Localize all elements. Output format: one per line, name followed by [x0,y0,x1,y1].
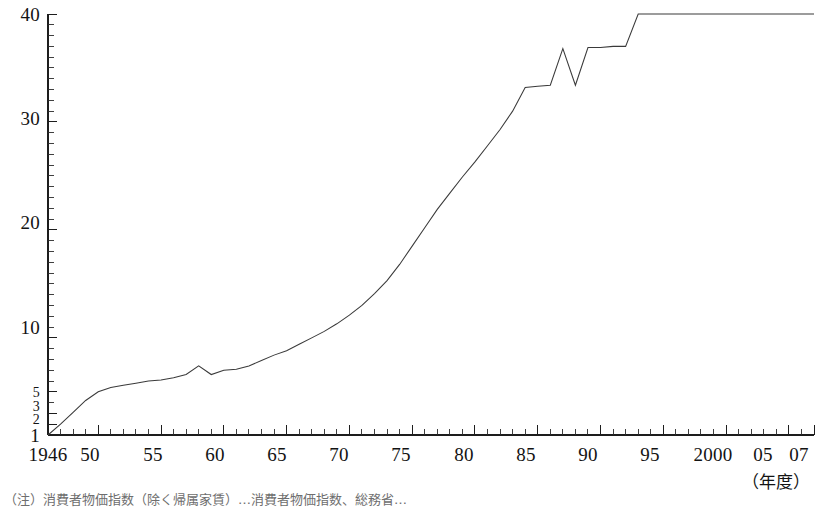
x-tick-label-1970: 70 [309,445,369,464]
x-tick-label-2000: 2000 [678,445,748,464]
x-tick-label-1985: 85 [496,445,556,464]
x-tick-label-2007: 07 [779,445,819,464]
x-tick-label-1980: 80 [434,445,494,464]
x-tick-label-1995: 95 [620,445,680,464]
data-series-line [48,14,814,435]
y-tick-label-20: 20 [0,213,40,232]
x-tick-label-1960: 60 [185,445,245,464]
x-tick-label-1965: 65 [247,445,307,464]
chart-footnote: （注）消費者物価指数（除く帰属家賃）…消費者物価指数、総務省… [4,489,564,508]
y-tick-label-1: 1 [0,426,40,445]
x-tick-label-1975: 75 [371,445,431,464]
y-tick-label-5: 5 [0,386,40,400]
y-tick-label-10: 10 [0,318,40,337]
x-tick-label-1990: 90 [558,445,618,464]
x-axis-unit-label: （年度） [742,468,810,493]
y-tick-label-30: 30 [0,109,40,128]
y-tick-label-40: 40 [0,5,40,24]
x-tick-label-2005: 05 [743,445,783,464]
x-tick-label-1955: 55 [123,445,183,464]
x-tick-label-1950: 50 [60,445,120,464]
